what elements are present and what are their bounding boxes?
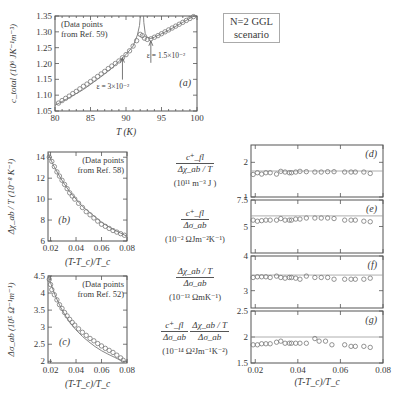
x-tick-label: 0.06: [333, 365, 349, 375]
y-tick-label: 3: [244, 286, 249, 296]
data-point: [349, 170, 353, 174]
panel-e: 57.5(e): [237, 195, 383, 253]
ylabel-e-denominator: Δσ_ab: [181, 220, 208, 231]
y-tick-label: 1.05: [36, 106, 52, 116]
data-point: [332, 169, 336, 173]
x-tick-label: 0.08: [375, 365, 391, 375]
scenario-box: N=2 GGL scenario: [223, 13, 280, 43]
data-point: [349, 277, 353, 281]
scenario-line-2: scenario: [224, 28, 279, 41]
x-tick-label: 0.04: [68, 365, 84, 375]
y-tick-label: 7.5: [237, 195, 249, 205]
ylabel-panel-e: c⁺_flΔσ_ab (10⁻² ΩJm⁻²K⁻¹): [145, 208, 245, 245]
panel-a: 808590951001.051.101.151.201.251.301.35(…: [8, 11, 204, 138]
ylabel-d-denominator: Δχ_ab / T: [176, 164, 215, 175]
scenario-line-1: N=2 GGL: [224, 15, 279, 28]
data-source-note: (Data points: [61, 19, 103, 29]
y-tick-label: 12: [36, 173, 45, 183]
ylabel-g-denominator-2: Δσ_ab: [190, 332, 229, 343]
data-point: [325, 275, 329, 279]
x-axis-title: T (K): [116, 127, 136, 138]
x-axis-title: (T-T_c)/T_c: [65, 257, 111, 268]
panel-label: (d): [365, 148, 377, 160]
data-point: [353, 218, 357, 222]
data-point: [294, 170, 298, 174]
data-point: [319, 170, 323, 174]
data-point: [255, 343, 259, 347]
data-point: [313, 216, 317, 220]
data-point: [251, 275, 255, 279]
data-point: [279, 216, 283, 220]
ylabel-panel-g: c⁺_flΔσ_ab Δχ_ab / TΔσ_ab (10⁻¹⁴ Ω²Jm⁻¹K…: [140, 320, 250, 357]
panel-label: (e): [366, 203, 378, 215]
ylabel-panel-f: Δχ_ab / TΔσ_ab (10⁻¹³ ΩmK⁻¹): [150, 266, 240, 303]
x-tick-label: 0.08: [119, 365, 135, 375]
ylabel-d-numerator: c⁺_fl: [176, 152, 215, 164]
data-point: [251, 218, 255, 222]
data-point: [353, 170, 357, 174]
y-tick-label: 1.35: [36, 11, 52, 21]
data-point: [251, 343, 255, 347]
ylabel-e-numerator: c⁺_fl: [181, 208, 208, 220]
data-point: [332, 277, 336, 281]
data-point: [283, 170, 287, 174]
y-tick-label: 1.15: [36, 74, 52, 84]
data-point: [268, 342, 272, 346]
y-axis-title: Δσ_ab (10⁵ Ω⁻¹m⁻¹): [6, 283, 16, 358]
x-tick-label: 90: [122, 113, 132, 123]
x-axis-title: (T-T_c)/T_c: [294, 377, 340, 388]
data-point: [268, 275, 272, 279]
data-point: [362, 170, 366, 174]
data-point: [304, 341, 308, 345]
data-point: [298, 341, 302, 345]
y-tick-label: 1.20: [36, 59, 52, 69]
data-point: [283, 218, 287, 222]
data-point: [323, 339, 327, 343]
data-source-note: from Ref. 58): [77, 165, 124, 175]
data-point: [368, 220, 372, 224]
ylabel-g-units: (10⁻¹⁴ Ω²Jm⁻¹K⁻²): [140, 346, 250, 357]
x-tick-label: 0.04: [290, 365, 306, 375]
panel-label: (f): [368, 259, 378, 271]
epsilon-label: ε = 3×10⁻²: [96, 82, 130, 91]
panel-g: 0.020.040.060.081.522.5(g)(T-T_c)/T_c: [237, 306, 392, 388]
ylabel-e-units: (10⁻² ΩJm⁻²K⁻¹): [145, 234, 245, 245]
y-axis-title: c_total (10⁶ JK⁻¹m⁻³): [8, 24, 18, 103]
data-point: [274, 340, 278, 344]
y-tick-label: 2.5: [34, 339, 46, 349]
panel-b: 0.020.040.060.0868101214(b)(Data pointsf…: [6, 152, 135, 268]
data-point: [349, 344, 353, 348]
panel-label: (c): [59, 336, 71, 348]
data-point: [342, 218, 346, 222]
panel-c: 0.020.040.060.0822.533.544.5(c)(Data poi…: [6, 271, 135, 390]
data-point: [317, 339, 321, 343]
x-tick-label: 0.06: [94, 365, 110, 375]
y-tick-label: 1.30: [36, 27, 52, 37]
data-source-note: from Ref. 52): [77, 289, 124, 299]
data-point: [368, 171, 372, 175]
data-point: [362, 277, 366, 281]
data-point: [259, 342, 263, 346]
data-point: [325, 216, 329, 220]
data-point: [274, 172, 278, 176]
data-point: [294, 341, 298, 345]
data-point: [353, 344, 357, 348]
x-tick-label: 100: [190, 113, 204, 123]
plot-frame: [251, 256, 383, 308]
data-point: [279, 339, 283, 343]
data-point: [264, 218, 268, 222]
data-point: [342, 170, 346, 174]
data-point: [319, 216, 323, 220]
x-tick-label: 95: [157, 113, 167, 123]
x-tick-label: 0.02: [43, 243, 59, 253]
data-point: [268, 218, 272, 222]
y-tick-label: 2: [244, 157, 249, 167]
x-tick-label: 0.08: [119, 243, 135, 253]
y-tick-label: 10: [36, 194, 46, 204]
y-tick-label: 4: [244, 251, 249, 261]
data-point: [325, 169, 329, 173]
data-point: [362, 219, 366, 223]
ylabel-g-denominator-1: Δσ_ab: [161, 332, 188, 343]
y-tick-label: 2: [41, 356, 46, 366]
data-point: [298, 217, 302, 221]
